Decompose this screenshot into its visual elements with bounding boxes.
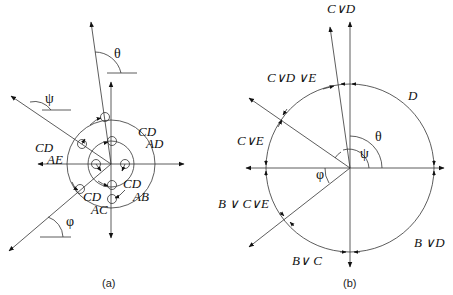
theta-label-b: θ (375, 130, 382, 144)
state-node (108, 181, 117, 190)
psi-label-a: ψ (45, 92, 54, 106)
region-label-left-upper: C∨E (237, 134, 264, 147)
state-label-cd-ab-sub: AB (133, 190, 149, 203)
psi-label-b: ψ (360, 147, 369, 161)
phi-label-b: φ (316, 168, 324, 182)
region-label-top-left: C∨D ∨E (267, 71, 316, 84)
panel-b (246, 22, 444, 267)
psi-arc-left (335, 152, 341, 158)
transition-arrow (115, 190, 125, 198)
state-node (108, 195, 117, 204)
region-label-right-lower: B ∨D (414, 236, 445, 249)
phi-arc (48, 217, 63, 237)
phi-label-a: φ (66, 215, 74, 229)
state-label-cd-ac-sub: AC (91, 203, 108, 216)
caption-a: (a) (102, 278, 115, 289)
diagram-canvas (0, 0, 453, 295)
region-label-bottom-left: B∨ C (292, 254, 322, 267)
caption-b: (b) (343, 278, 356, 289)
state-label-cd-ad-sub: AD (146, 137, 163, 150)
phi-arc (325, 168, 329, 183)
region-label-right-upper: D (408, 89, 417, 102)
theta-label-a: θ (114, 47, 121, 61)
state-label-cd-ae-sub: AE (47, 153, 63, 166)
region-label-top: C∨D (327, 2, 355, 15)
region-label-left-lower: B ∨ C∨E (218, 197, 269, 210)
theta-line (330, 27, 350, 168)
